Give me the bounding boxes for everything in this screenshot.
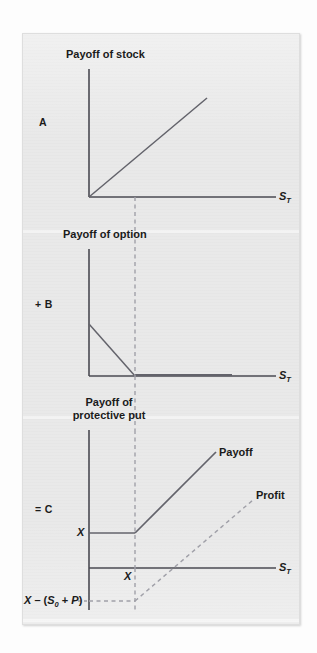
breakeven-close: ) bbox=[79, 594, 83, 606]
breakeven-label: X – (S0 + P) bbox=[24, 594, 82, 609]
breakeven-s: S bbox=[47, 594, 54, 606]
panel-key-c: = C bbox=[35, 504, 53, 516]
panel-a-graphics bbox=[89, 69, 276, 197]
breakeven-p: P bbox=[71, 594, 78, 606]
breakeven-op: – ( bbox=[31, 594, 47, 606]
panel-a-stock-payoff-line bbox=[89, 98, 207, 197]
panel-c-title-line2: protective put bbox=[60, 409, 158, 421]
panel-b-axis-label: ST bbox=[279, 369, 291, 384]
panel-c-axis-label: ST bbox=[279, 561, 291, 576]
panel-c-x-tick-x: X bbox=[124, 570, 131, 582]
panel-c-payoff-slope bbox=[135, 452, 216, 533]
panel-key-a: A bbox=[39, 117, 47, 129]
panel-c-title-line1: Payoff of bbox=[60, 396, 158, 408]
panel-a-title: Payoff of stock bbox=[66, 48, 145, 60]
charts-svg bbox=[0, 0, 317, 653]
payoff-curve-label: Payoff bbox=[219, 446, 253, 458]
profit-curve-label: Profit bbox=[256, 489, 285, 501]
panel-b-axis-sub: T bbox=[286, 375, 291, 384]
panel-b-title: Payoff of option bbox=[63, 228, 147, 240]
panel-a-axis-label: ST bbox=[279, 190, 291, 205]
panel-c-axis-sub: T bbox=[286, 567, 291, 576]
breakeven-mid: + bbox=[59, 594, 72, 606]
panel-b-graphics bbox=[89, 249, 276, 376]
figure-root: A Payoff of stock ST + B Payoff of optio… bbox=[0, 0, 317, 653]
panel-c-y-tick-x: X bbox=[77, 526, 84, 538]
panel-b-put-slope bbox=[89, 324, 135, 376]
panel-a-axis-sub: T bbox=[286, 196, 291, 205]
panel-key-b: + B bbox=[35, 299, 53, 311]
